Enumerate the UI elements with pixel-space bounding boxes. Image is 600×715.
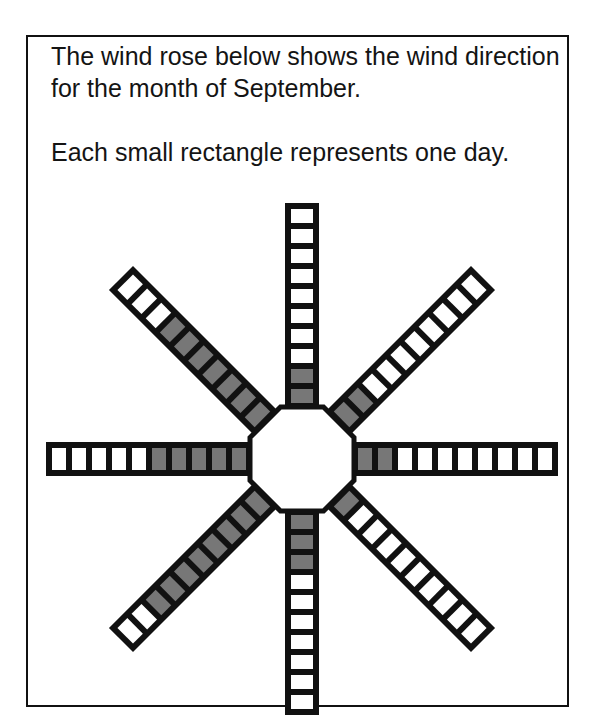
day-rectangle-empty xyxy=(398,448,412,470)
day-rectangle-empty xyxy=(538,448,552,470)
day-rectangle-empty xyxy=(291,655,313,669)
day-rectangle-empty xyxy=(132,448,146,470)
wind-rose-center-octagon xyxy=(250,407,354,511)
day-rectangle-empty xyxy=(291,675,313,689)
wind-rose-arm-w xyxy=(46,442,250,476)
wind-rose-arm-sw xyxy=(109,484,277,652)
wind-rose-diagram xyxy=(0,0,600,715)
day-rectangle-shaded xyxy=(291,515,313,529)
day-rectangle-empty xyxy=(418,448,432,470)
day-rectangle-empty xyxy=(291,329,313,343)
day-rectangle-empty xyxy=(52,448,66,470)
day-rectangle-shaded xyxy=(358,448,372,470)
day-rectangle-empty xyxy=(291,635,313,649)
day-rectangle-shaded xyxy=(152,448,166,470)
wind-rose-arm-nw xyxy=(109,266,277,434)
day-rectangle-empty xyxy=(291,595,313,609)
day-rectangle-empty xyxy=(458,448,472,470)
day-rectangle-empty xyxy=(291,349,313,363)
day-rectangle-empty xyxy=(291,249,313,263)
day-rectangle-shaded xyxy=(172,448,186,470)
wind-rose-arm-ne xyxy=(327,266,495,434)
wind-rose-arm-n xyxy=(285,203,319,407)
day-rectangle-empty xyxy=(478,448,492,470)
day-rectangle-empty xyxy=(291,695,313,709)
day-rectangle-shaded xyxy=(378,448,392,470)
day-rectangle-empty xyxy=(291,289,313,303)
wind-rose-arm-se xyxy=(327,484,495,652)
day-rectangle-empty xyxy=(438,448,452,470)
day-rectangle-shaded xyxy=(291,535,313,549)
wind-rose-arm-s xyxy=(285,511,319,715)
day-rectangle-shaded xyxy=(232,448,246,470)
day-rectangle-empty xyxy=(291,575,313,589)
day-rectangle-empty xyxy=(291,269,313,283)
day-rectangle-empty xyxy=(112,448,126,470)
day-rectangle-empty xyxy=(291,615,313,629)
day-rectangle-empty xyxy=(291,229,313,243)
day-rectangle-shaded xyxy=(212,448,226,470)
wind-rose-arm-e xyxy=(354,442,558,476)
day-rectangle-empty xyxy=(291,209,313,223)
day-rectangle-empty xyxy=(92,448,106,470)
day-rectangle-empty xyxy=(518,448,532,470)
day-rectangle-empty xyxy=(291,309,313,323)
day-rectangle-shaded xyxy=(291,555,313,569)
day-rectangle-empty xyxy=(72,448,86,470)
day-rectangle-shaded xyxy=(192,448,206,470)
day-rectangle-empty xyxy=(498,448,512,470)
day-rectangle-shaded xyxy=(291,369,313,383)
day-rectangle-shaded xyxy=(291,389,313,403)
